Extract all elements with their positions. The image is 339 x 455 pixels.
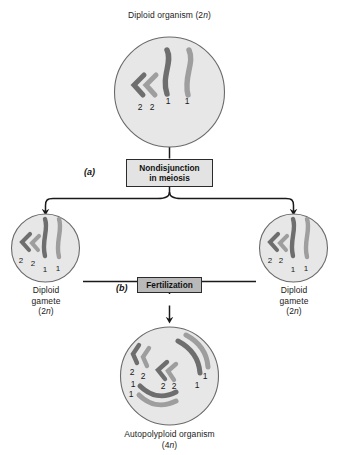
chromosome-number-2: 2 <box>141 371 146 381</box>
chromosome-number-2: 2 <box>161 381 166 391</box>
caption-autopolyploid-cell: Autopolyploid organism(4n) <box>45 429 295 450</box>
chromosome-number-1: 1 <box>129 389 134 399</box>
chromosome-number-1: 1 <box>203 371 208 381</box>
chromosome-number-1: 1 <box>131 379 136 389</box>
chromosome-number-2: 2 <box>130 367 135 377</box>
autopolyploidy-diagram: 2 2 1 1 Diploid organism (2n) (a) Nondis… <box>0 0 339 455</box>
chromosome-number-1: 1 <box>195 380 200 390</box>
chromosome-number-2: 2 <box>172 381 177 391</box>
cell-autopolyploid-zygote: 2 2 2 2 1 1 1 1 <box>0 0 339 455</box>
